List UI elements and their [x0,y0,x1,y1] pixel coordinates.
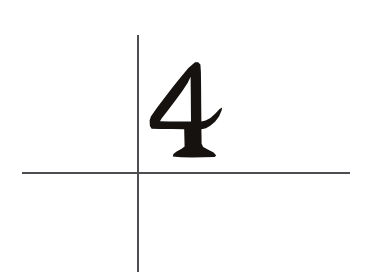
figure-svg [0,0,367,279]
paper-background [0,0,367,279]
image-canvas: 4 Handwritten digit four on white paper … [0,0,367,279]
